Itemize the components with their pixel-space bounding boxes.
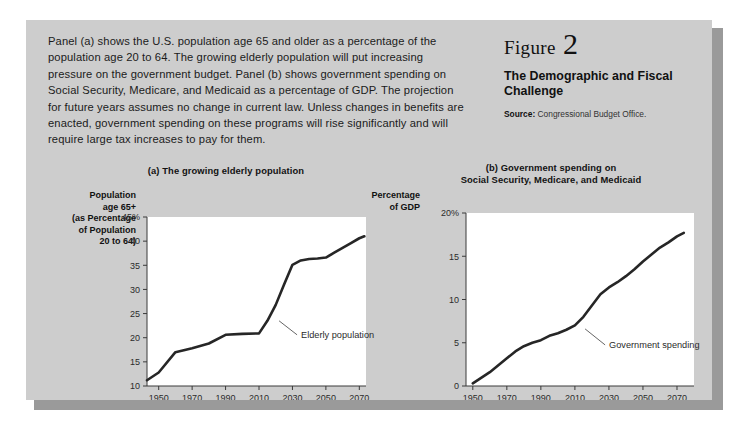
- x-tick-label: 1990: [216, 393, 236, 400]
- figure-card: Panel (a) shows the U.S. population age …: [26, 20, 712, 400]
- y-tick-label: 40: [130, 236, 140, 246]
- plot-background: [147, 217, 366, 386]
- panel-a-plot: 1015202530354045%19501970199020102030205…: [26, 20, 376, 400]
- y-tick-label: 45%: [122, 212, 140, 222]
- card-shadow-right: [712, 28, 723, 410]
- panel-b-plot: 05101520%1950197019902010203020502070Gov…: [356, 20, 712, 400]
- y-tick-label: 10: [449, 295, 459, 305]
- x-tick-label: 2070: [667, 393, 687, 400]
- y-tick-label: 30: [130, 285, 140, 295]
- x-tick-label: 2050: [633, 393, 653, 400]
- x-tick-label: 1970: [497, 393, 517, 400]
- y-tick-label: 35: [130, 261, 140, 271]
- y-tick-label: 5: [454, 338, 459, 348]
- y-tick-label: 0: [454, 381, 459, 391]
- x-tick-label: 2010: [249, 393, 269, 400]
- annotation-label: Government spending: [609, 340, 699, 350]
- y-tick-label: 15: [449, 252, 459, 262]
- x-tick-label: 1950: [463, 393, 483, 400]
- x-tick-label: 1970: [182, 393, 202, 400]
- x-tick-label: 2050: [316, 393, 336, 400]
- panel-a: (a) The growing elderly population Popul…: [26, 20, 376, 400]
- y-tick-label: 20%: [441, 208, 459, 218]
- y-tick-label: 25: [130, 309, 140, 319]
- x-tick-label: 2030: [599, 393, 619, 400]
- x-tick-label: 2030: [282, 393, 302, 400]
- figure-root: Panel (a) shows the U.S. population age …: [0, 0, 744, 421]
- card-shadow-bottom: [34, 400, 723, 410]
- x-tick-label: 2010: [565, 393, 585, 400]
- y-tick-label: 15: [130, 357, 140, 367]
- y-tick-label: 20: [130, 333, 140, 343]
- y-tick-label: 10: [130, 381, 140, 391]
- x-tick-label: 1990: [531, 393, 551, 400]
- plot-background: [466, 213, 694, 386]
- x-tick-label: 1950: [149, 393, 169, 400]
- panel-b: (b) Government spending on Social Securi…: [356, 20, 712, 400]
